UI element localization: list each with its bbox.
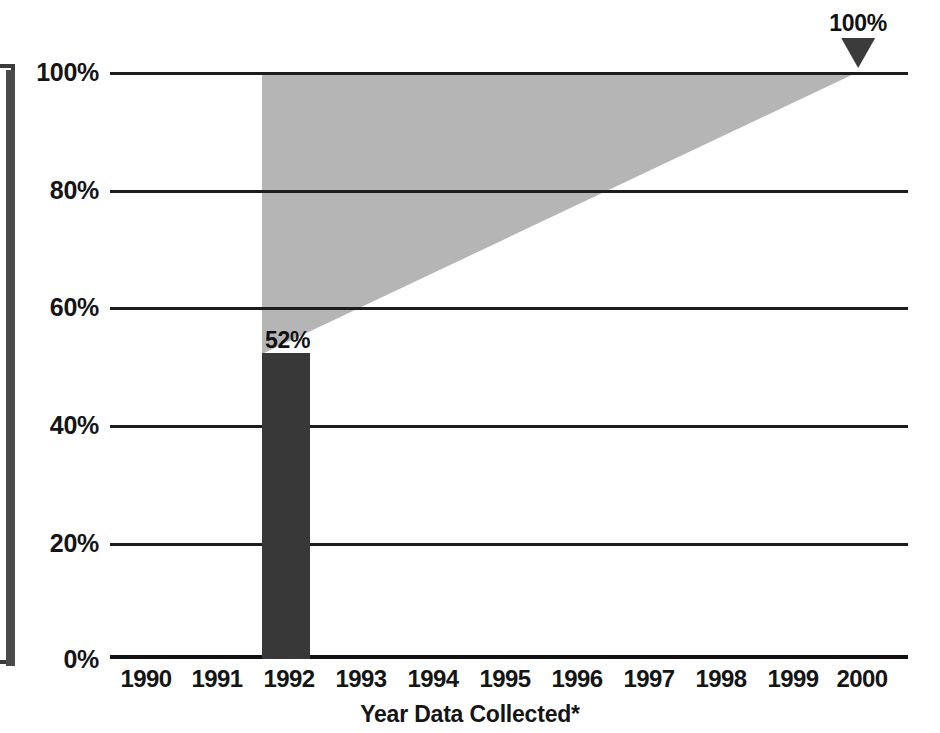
- y-tick-label-100: 100%: [36, 58, 99, 87]
- x-tick-label-1995: 1995: [480, 665, 531, 693]
- gridline-80: [110, 190, 908, 193]
- y-tick-label-0: 0%: [63, 645, 99, 674]
- gridline-40: [110, 425, 908, 428]
- triangle-down-icon: [841, 38, 875, 68]
- x-tick-label-1997: 1997: [624, 665, 675, 693]
- x-axis-title: Year Data Collected*: [0, 701, 940, 728]
- x-axis-line: [110, 655, 908, 659]
- y-tick-label-60: 60%: [50, 293, 99, 322]
- x-tick-label-1998: 1998: [696, 665, 747, 693]
- projection-wedge: [110, 72, 908, 659]
- x-tick-label-1993: 1993: [336, 665, 387, 693]
- plot-area: 100% 80% 60% 40% 20% 0% 52%: [110, 72, 908, 659]
- gridline-60: [110, 307, 908, 310]
- gridline-20: [110, 543, 908, 546]
- gridline-100: [110, 72, 908, 75]
- chart-figure: 100% 80% 60% 40% 20% 0% 52% 100% 1990 19…: [0, 0, 940, 733]
- bar-value-label-1992: 52%: [265, 327, 310, 354]
- cropped-chart-title: [0, 0, 940, 8]
- y-tick-label-20: 20%: [50, 529, 99, 558]
- x-tick-label-1990: 1990: [121, 665, 172, 693]
- goal-marker-label: 100%: [829, 12, 887, 35]
- y-tick-label-80: 80%: [50, 176, 99, 205]
- adjacent-figure-edge-shadow: [6, 70, 15, 666]
- x-tick-label-1996: 1996: [552, 665, 603, 693]
- x-tick-label-1994: 1994: [408, 665, 459, 693]
- y-tick-label-40: 40%: [50, 411, 99, 440]
- x-tick-label-1992: 1992: [264, 665, 315, 693]
- goal-marker: 100%: [829, 12, 887, 68]
- x-tick-label-1999: 1999: [768, 665, 819, 693]
- x-tick-label-2000: 2000: [837, 665, 888, 693]
- bar-1992: [262, 353, 310, 659]
- x-tick-label-1991: 1991: [192, 665, 243, 693]
